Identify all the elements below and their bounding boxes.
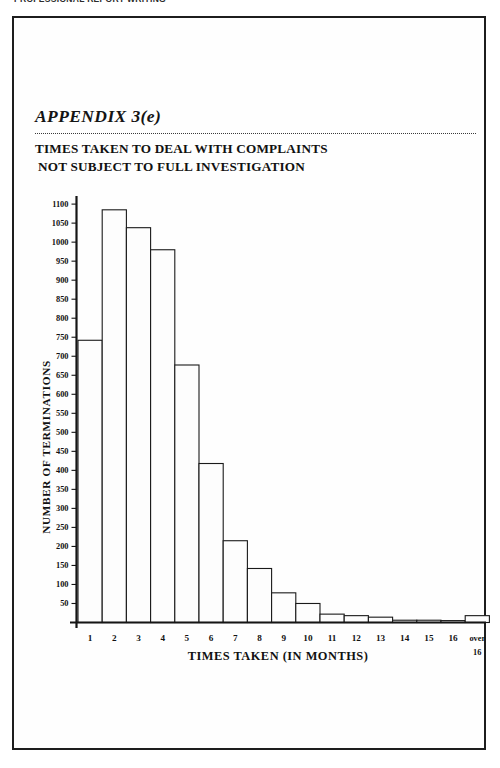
y-tick-label: 550 (56, 409, 69, 418)
y-tick-label: 250 (56, 523, 69, 532)
x-tick-label: 5 (185, 633, 190, 643)
y-tick-label: 800 (56, 314, 69, 323)
bar (247, 568, 271, 622)
x-tick-label: 8 (257, 633, 262, 643)
bars-group (78, 210, 489, 623)
y-tick-label: 850 (56, 295, 69, 304)
x-tick-label: 14 (400, 633, 410, 643)
y-axis-title: NUMBER OF TERMINATIONS (40, 360, 52, 534)
bar (175, 365, 199, 623)
y-tick-label: 700 (56, 352, 69, 361)
bar (296, 603, 320, 622)
x-tick-label: 16 (449, 633, 459, 643)
x-tick-label: 6 (209, 633, 214, 643)
y-tick-label: 500 (56, 428, 69, 437)
y-tick-label: 300 (56, 504, 69, 513)
bar (199, 464, 223, 623)
histogram-chart: 5010015020025030035040045050055060065070… (0, 0, 500, 768)
bar (78, 340, 102, 622)
y-tick-label: 650 (56, 371, 69, 380)
y-tick-label: 1100 (52, 200, 68, 209)
x-tick-label: 12 (352, 633, 362, 643)
y-tick-label: 350 (56, 485, 69, 494)
x-tick-label: 1 (88, 633, 93, 643)
y-tick-label: 600 (56, 390, 69, 399)
y-tick-label: 150 (56, 561, 69, 570)
x-tick-label: 10 (303, 633, 313, 643)
y-tick-label: 1050 (52, 219, 69, 228)
x-tick-label: 9 (281, 633, 286, 643)
y-tick-label: 450 (56, 447, 69, 456)
x-tick-label: 7 (233, 633, 238, 643)
bar (223, 541, 247, 623)
bar (320, 614, 344, 622)
x-tick-label: 11 (328, 633, 337, 643)
x-tick-label: 16 (473, 648, 481, 657)
y-tick-label: 100 (56, 580, 69, 589)
bar (151, 250, 175, 623)
bar (272, 593, 296, 623)
x-tick-label: over (469, 634, 485, 643)
bar (126, 228, 150, 623)
y-axis-ticks: 5010015020025030035040045050055060065070… (52, 200, 77, 608)
y-tick-label: 1000 (52, 238, 69, 247)
y-tick-label: 50 (60, 599, 68, 608)
y-tick-label: 200 (56, 542, 69, 551)
x-tick-label: 4 (160, 633, 165, 643)
x-axis-title: TIMES TAKEN (IN MONTHS) (188, 649, 369, 663)
x-tick-label: 13 (376, 633, 386, 643)
bar (102, 210, 126, 623)
y-tick-label: 400 (56, 466, 69, 475)
x-tick-label: 2 (112, 633, 117, 643)
y-tick-label: 900 (56, 276, 69, 285)
y-tick-label: 950 (56, 257, 69, 266)
x-tick-label: 3 (136, 633, 141, 643)
y-tick-label: 750 (56, 333, 69, 342)
x-tick-label: 15 (424, 633, 434, 643)
